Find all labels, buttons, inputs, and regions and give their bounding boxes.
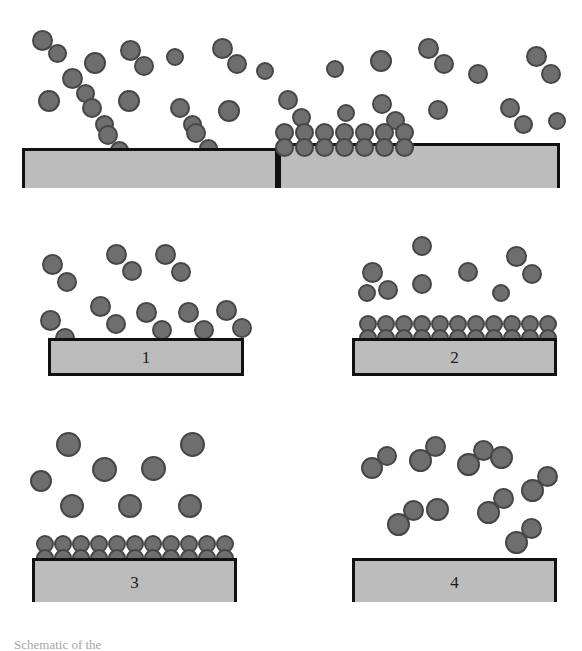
single-atom xyxy=(370,50,392,72)
single-atom xyxy=(362,262,383,283)
stage-3-panel: 3 xyxy=(10,420,280,620)
single-atom xyxy=(166,48,184,66)
single-atom xyxy=(395,138,414,157)
stage-1-panel: 1 xyxy=(10,228,280,378)
single-atom xyxy=(425,436,446,457)
single-atom xyxy=(426,498,449,521)
single-atom xyxy=(40,310,61,331)
single-atom xyxy=(468,64,488,84)
caption-fragment: Schematic of the xyxy=(14,637,374,651)
stage-4-panel: 4 xyxy=(320,420,582,620)
panel-label: 1 xyxy=(51,349,241,366)
single-atom xyxy=(358,284,376,302)
single-atom xyxy=(38,90,60,112)
single-atom xyxy=(141,456,166,481)
single-atom xyxy=(60,494,84,518)
single-atom xyxy=(30,470,52,492)
single-atom xyxy=(232,318,252,338)
single-atom xyxy=(48,44,67,63)
single-atom xyxy=(493,488,514,509)
substrate-lower-terrace xyxy=(22,148,278,188)
single-atom xyxy=(355,138,374,157)
single-atom xyxy=(403,500,424,521)
substrate-block: 4 xyxy=(352,558,557,602)
single-atom xyxy=(412,274,432,294)
panel-label: 2 xyxy=(355,349,554,366)
single-atom xyxy=(375,138,394,157)
single-atom xyxy=(155,244,176,265)
single-atom xyxy=(315,138,334,157)
single-atom xyxy=(84,52,106,74)
single-atom xyxy=(106,314,126,334)
single-atom xyxy=(378,280,398,300)
single-atom xyxy=(178,494,202,518)
single-atom xyxy=(136,302,157,323)
single-atom xyxy=(377,446,397,466)
single-atom xyxy=(218,100,240,122)
single-atom xyxy=(526,46,547,67)
single-atom xyxy=(412,236,432,256)
single-atom xyxy=(118,90,140,112)
single-atom xyxy=(194,320,214,340)
single-atom xyxy=(490,446,513,469)
single-atom xyxy=(337,104,355,122)
single-atom xyxy=(122,261,142,281)
substrate-block: 3 xyxy=(32,558,237,602)
single-atom xyxy=(492,284,510,302)
single-atom xyxy=(514,115,533,134)
substrate-block: 2 xyxy=(352,338,557,376)
single-atom xyxy=(82,98,102,118)
single-atom xyxy=(171,262,191,282)
stage-2-panel: 2 xyxy=(320,228,582,378)
single-atom xyxy=(335,138,354,157)
single-atom xyxy=(500,98,520,118)
single-atom xyxy=(428,100,448,120)
single-atom xyxy=(56,432,81,457)
single-atom xyxy=(458,262,478,282)
overview-panel xyxy=(0,0,582,210)
single-atom xyxy=(434,54,454,74)
single-atom xyxy=(227,54,247,74)
single-atom xyxy=(178,302,199,323)
single-atom xyxy=(537,466,558,487)
substrate-block: 1 xyxy=(48,338,244,376)
single-atom xyxy=(134,56,154,76)
single-atom xyxy=(118,494,142,518)
single-atom xyxy=(106,244,127,265)
single-atom xyxy=(90,296,111,317)
single-atom xyxy=(372,94,392,114)
single-atom xyxy=(418,38,439,59)
single-atom xyxy=(92,457,117,482)
panel-label: 4 xyxy=(355,573,554,590)
single-atom xyxy=(256,62,274,80)
single-atom xyxy=(42,254,63,275)
single-atom xyxy=(521,518,542,539)
single-atom xyxy=(216,300,237,321)
panel-label: 3 xyxy=(35,573,234,590)
single-atom xyxy=(152,320,172,340)
single-atom xyxy=(541,64,561,84)
single-atom xyxy=(295,138,314,157)
single-atom xyxy=(548,112,566,130)
single-atom xyxy=(278,90,298,110)
single-atom xyxy=(522,264,542,284)
single-atom xyxy=(506,246,527,267)
single-atom xyxy=(275,138,294,157)
single-atom xyxy=(326,60,344,78)
single-atom xyxy=(57,272,77,292)
single-atom xyxy=(180,432,205,457)
single-atom xyxy=(170,98,190,118)
